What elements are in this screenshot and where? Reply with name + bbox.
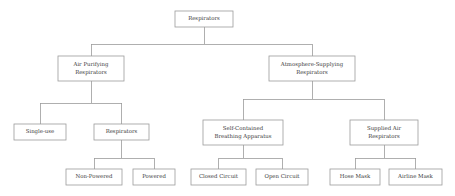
node-label-supplied-air-respirators: Supplied AirRespirators: [367, 125, 401, 140]
node-self-contained-breathing-apparatus[interactable]: Self-ContainedBreathing Apparatus: [203, 120, 283, 145]
node-label-respirators-reusable: Respirators: [106, 128, 138, 135]
node-label-line: Respirators: [75, 69, 107, 76]
respirator-tree-diagram: RespiratorsAir PurifyingRespiratorsAtmos…: [0, 0, 455, 196]
node-label-line: Powered: [142, 173, 166, 179]
node-label-line: Atmosphere-Supplying: [280, 61, 344, 68]
node-airline-mask[interactable]: Airline Mask: [389, 169, 442, 185]
node-label-line: Respirators: [106, 128, 138, 135]
node-label-line: Open Circuit: [264, 173, 300, 180]
node-closed-circuit[interactable]: Closed Circuit: [191, 169, 246, 185]
node-label-line: Respirators: [368, 133, 400, 140]
node-label-airline-mask: Airline Mask: [397, 173, 434, 179]
node-label-line: Self-Contained: [223, 125, 264, 131]
node-hose-mask[interactable]: Hose Mask: [330, 169, 380, 185]
node-label-open-circuit: Open Circuit: [264, 173, 300, 180]
node-label-line: Non-Powered: [76, 173, 113, 179]
node-supplied-air-respirators[interactable]: Supplied AirRespirators: [350, 120, 418, 145]
node-label-line: Closed Circuit: [199, 173, 239, 179]
node-non-powered[interactable]: Non-Powered: [66, 169, 122, 185]
node-atmosphere-supplying-respirators[interactable]: Atmosphere-SupplyingRespirators: [269, 56, 355, 81]
node-label-hose-mask: Hose Mask: [340, 173, 371, 179]
node-label-line: Air Purifying: [73, 61, 110, 68]
node-label-closed-circuit: Closed Circuit: [199, 173, 239, 179]
node-respirators-reusable[interactable]: Respirators: [94, 124, 149, 140]
node-label-line: Respirators: [188, 15, 220, 22]
node-label-air-purifying-respirators: Air PurifyingRespirators: [73, 61, 110, 76]
node-label-line: Single-use: [26, 128, 55, 135]
node-open-circuit[interactable]: Open Circuit: [256, 169, 308, 185]
node-label-line: Respirators: [296, 69, 328, 76]
node-label-powered: Powered: [142, 173, 166, 179]
node-label-line: Supplied Air: [367, 125, 401, 132]
node-label-line: Hose Mask: [340, 173, 371, 179]
node-layer: RespiratorsAir PurifyingRespiratorsAtmos…: [14, 11, 442, 185]
node-single-use[interactable]: Single-use: [14, 124, 66, 140]
node-respirators[interactable]: Respirators: [175, 11, 233, 27]
node-label-line: Breathing Apparatus: [214, 133, 271, 140]
connector-layer: [40, 27, 416, 169]
node-label-single-use: Single-use: [26, 128, 55, 135]
node-label-non-powered: Non-Powered: [76, 173, 113, 179]
tree-canvas: RespiratorsAir PurifyingRespiratorsAtmos…: [0, 0, 455, 196]
node-air-purifying-respirators[interactable]: Air PurifyingRespirators: [58, 56, 124, 81]
node-label-line: Airline Mask: [397, 173, 434, 179]
node-powered[interactable]: Powered: [133, 169, 175, 185]
node-label-respirators: Respirators: [188, 15, 220, 22]
